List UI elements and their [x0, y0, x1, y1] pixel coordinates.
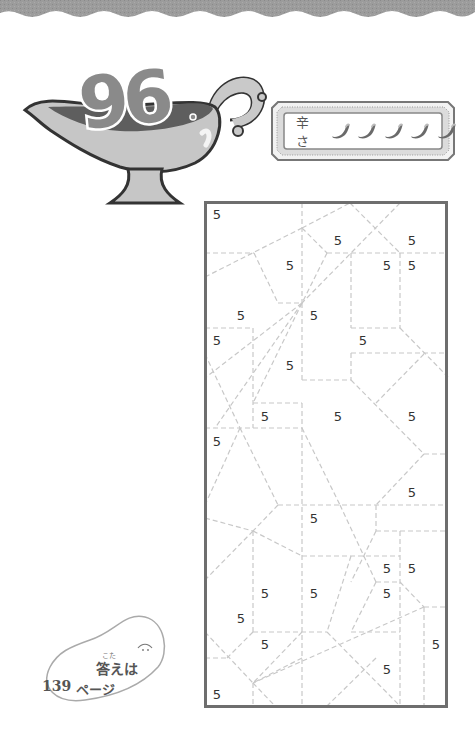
chili-pepper-icon — [356, 122, 376, 140]
clue-number: 5 — [381, 587, 393, 600]
clue-number: 5 — [211, 688, 223, 701]
clue-number: 5 — [332, 410, 344, 423]
clue-number: 5 — [211, 435, 223, 448]
gravy-boat-illustration: 96 — [10, 45, 270, 215]
answer-page-suffix: ページ — [76, 679, 115, 698]
answer-page-note: こた 答えは 139 ページ — [30, 612, 170, 707]
clue-number: 5 — [406, 486, 418, 499]
puzzle-grid[interactable] — [204, 201, 448, 708]
clue-number: 5 — [357, 334, 369, 347]
clue-number: 5 — [211, 208, 223, 221]
clue-number: 5 — [406, 234, 418, 247]
clue-number: 5 — [406, 410, 418, 423]
clue-number: 5 — [235, 612, 247, 625]
clue-number: 5 — [308, 587, 320, 600]
clue-number: 5 — [259, 587, 271, 600]
clue-number: 5 — [332, 234, 344, 247]
clue-number: 5 — [211, 334, 223, 347]
spice-label: 辛さ — [296, 112, 320, 150]
chili-pepper-icon — [330, 122, 350, 140]
clue-number: 5 — [406, 259, 418, 272]
answer-page-number: 139 — [42, 678, 71, 694]
clue-number: 5 — [259, 638, 271, 651]
chili-pepper-icon — [436, 122, 456, 140]
chili-pepper-icon — [383, 122, 403, 140]
clue-number: 5 — [284, 359, 296, 372]
clue-number: 5 — [406, 562, 418, 575]
top-decorative-band — [0, 0, 475, 20]
clue-number: 5 — [235, 309, 247, 322]
clue-number: 5 — [430, 638, 442, 651]
spice-rating: 辛さ — [270, 100, 456, 162]
clue-number: 5 — [381, 562, 393, 575]
spice-rating-box: 辛さ — [270, 100, 456, 162]
clue-number: 5 — [381, 663, 393, 676]
clue-number: 5 — [284, 259, 296, 272]
chili-pepper-icon — [409, 122, 429, 140]
puzzle-number-badge: 96 — [10, 45, 270, 215]
clue-number: 5 — [308, 512, 320, 525]
clue-number: 5 — [381, 259, 393, 272]
clue-number: 5 — [308, 309, 320, 322]
puzzle-number: 96 — [75, 53, 174, 146]
clue-number: 5 — [259, 410, 271, 423]
answer-label: 答えは — [96, 658, 138, 678]
